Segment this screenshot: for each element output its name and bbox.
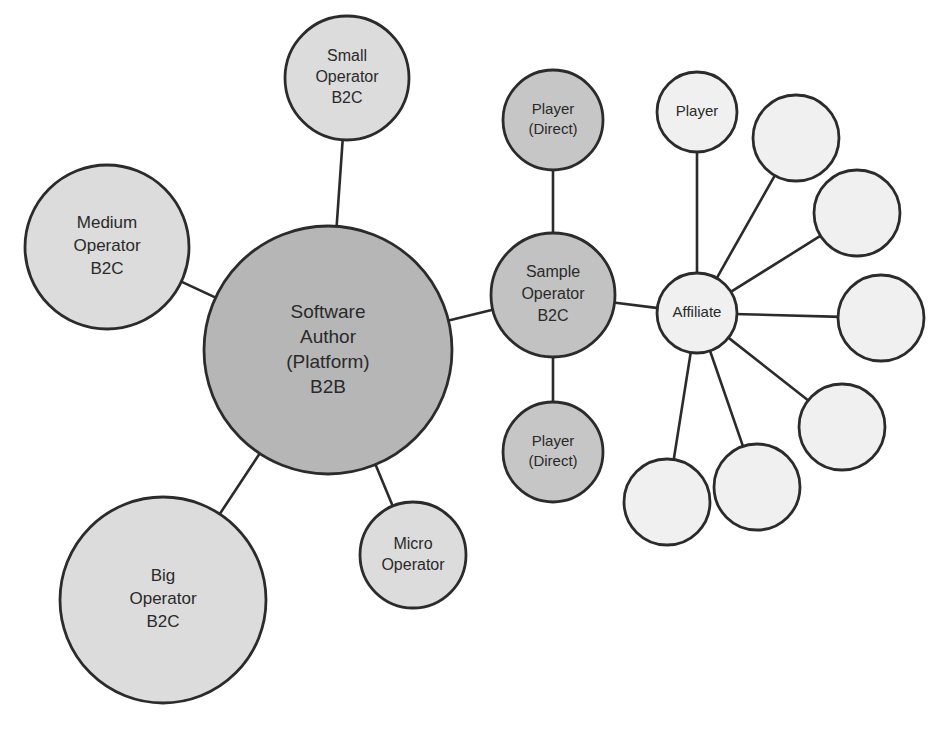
node-shape-small-operator[interactable] xyxy=(285,16,409,140)
node-affiliate-sub-2[interactable] xyxy=(814,170,900,256)
edge-affiliate-sub-3 xyxy=(734,314,841,317)
edge-affiliate-sub-5 xyxy=(709,348,744,449)
node-player-direct-bottom[interactable]: Player(Direct) xyxy=(503,402,603,502)
edge-software-author-small-operator xyxy=(336,137,342,229)
node-software-author[interactable]: SoftwareAuthor(Platform)B2B xyxy=(204,226,452,474)
node-shape-affiliate-sub-4[interactable] xyxy=(799,384,885,470)
node-shape-software-author[interactable] xyxy=(204,226,452,474)
diagram-canvas: SoftwareAuthor(Platform)B2BMediumOperato… xyxy=(0,0,942,733)
edge-affiliate-sub-6 xyxy=(673,350,691,463)
edge-sample-operator-affiliate xyxy=(612,302,661,308)
node-shape-player-affiliate[interactable] xyxy=(657,72,737,152)
node-shape-player-direct-top[interactable] xyxy=(503,70,603,170)
node-player-affiliate[interactable]: Player xyxy=(657,72,737,152)
node-shape-affiliate-sub-3[interactable] xyxy=(838,275,924,361)
edge-affiliate-sub-1 xyxy=(715,173,776,281)
node-player-direct-top[interactable]: Player(Direct) xyxy=(503,70,603,170)
node-small-operator[interactable]: SmallOperatorB2C xyxy=(285,16,409,140)
node-shape-player-direct-bottom[interactable] xyxy=(503,402,603,502)
node-shape-affiliate-sub-2[interactable] xyxy=(814,170,900,256)
node-shape-big-operator[interactable] xyxy=(60,497,266,703)
node-affiliate-sub-5[interactable] xyxy=(714,444,800,530)
node-shape-affiliate[interactable] xyxy=(657,273,737,353)
node-shape-micro-operator[interactable] xyxy=(360,502,466,608)
node-big-operator[interactable]: BigOperatorB2C xyxy=(60,497,266,703)
node-shape-sample-operator[interactable] xyxy=(491,233,615,357)
node-shape-affiliate-sub-6[interactable] xyxy=(624,459,710,545)
edge-software-author-medium-operator xyxy=(179,280,219,299)
node-shape-affiliate-sub-1[interactable] xyxy=(753,95,839,181)
node-affiliate-sub-4[interactable] xyxy=(799,384,885,470)
edge-software-author-sample-operator xyxy=(446,309,496,321)
node-affiliate-sub-3[interactable] xyxy=(838,275,924,361)
node-medium-operator[interactable]: MediumOperatorB2C xyxy=(25,165,189,329)
edge-affiliate-sub-2 xyxy=(728,234,823,293)
node-affiliate-sub-6[interactable] xyxy=(624,459,710,545)
node-affiliate[interactable]: Affiliate xyxy=(657,273,737,353)
node-shape-medium-operator[interactable] xyxy=(25,165,189,329)
node-sample-operator[interactable]: SampleOperatorB2C xyxy=(491,233,615,357)
edge-affiliate-sub-4 xyxy=(726,336,810,402)
node-affiliate-sub-1[interactable] xyxy=(753,95,839,181)
edge-software-author-micro-operator xyxy=(374,462,394,509)
node-shape-affiliate-sub-5[interactable] xyxy=(714,444,800,530)
edge-software-author-big-operator xyxy=(218,451,261,517)
nodes-layer: SoftwareAuthor(Platform)B2BMediumOperato… xyxy=(25,16,924,703)
node-micro-operator[interactable]: MicroOperator xyxy=(360,502,466,608)
network-diagram: SoftwareAuthor(Platform)B2BMediumOperato… xyxy=(0,0,942,733)
